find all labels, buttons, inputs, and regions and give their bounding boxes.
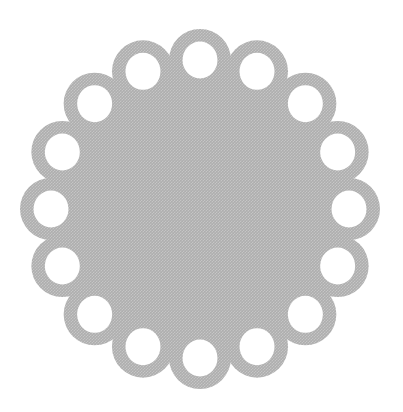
eyelet-hole [183, 42, 218, 79]
eyelet-hole [240, 53, 275, 90]
eyelet-hole [77, 85, 112, 122]
eyelet-hole [34, 191, 69, 228]
eyelet-hole [45, 248, 80, 285]
eyelet-hole [332, 191, 367, 228]
eyelet-hole [125, 53, 160, 90]
doily-body [20, 29, 380, 389]
eyelet-hole [288, 85, 323, 122]
eyelet-hole [45, 133, 80, 170]
eyelet-hole [240, 328, 275, 365]
eyelet-hole [183, 340, 218, 377]
eyelet-hole [288, 296, 323, 333]
eyelet-hole [77, 296, 112, 333]
eyelet-hole [320, 133, 355, 170]
doily-graphic [0, 0, 403, 412]
doily-figure [0, 0, 403, 412]
image-canvas [0, 0, 403, 412]
eyelet-hole [320, 248, 355, 285]
eyelet-hole [125, 328, 160, 365]
